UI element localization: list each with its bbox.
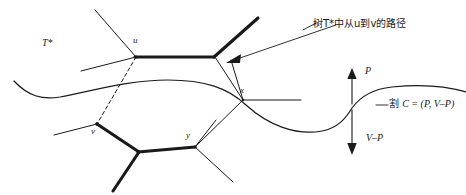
bold-edge-to-y: [138, 147, 195, 152]
vp-arrow-head: [347, 143, 356, 155]
bold-edge-v-down-right: [97, 124, 139, 152]
edge-y-down-right: [195, 147, 233, 182]
vertex-dot-x: [242, 99, 245, 102]
bold-edge-up-right: [214, 18, 258, 57]
p-arrow-head: [347, 68, 356, 79]
vertex-dot-y: [193, 145, 196, 148]
vertex-label-x: x: [240, 86, 244, 95]
path-callout-line: [240, 25, 336, 58]
thin-tree-edges: [54, 10, 301, 182]
vertex-dot-v: [95, 122, 99, 126]
path-annotation-label: 树T*中从u到v的路径: [313, 19, 406, 29]
edge-y-up-right: [195, 120, 216, 147]
edge-u-up-left: [95, 10, 136, 57]
vertex-label-u: u: [133, 36, 138, 45]
bold-path-edges: [97, 18, 258, 191]
partition-label-v-minus-p: V–P: [366, 133, 383, 143]
cut-direction-arrows: [347, 68, 356, 155]
mst-cut-diagram: T* u v x y 树T*中从u到v的路径 P V–P 割 C = (P, V…: [0, 0, 466, 195]
cut-annotation-label: 割 C = (P, V–P): [389, 99, 454, 109]
edge-u-down-left: [81, 57, 136, 71]
vertex-label-y: y: [186, 131, 190, 140]
edge-junction-x: [215, 57, 243, 100]
cut-annotation-math-part: C = (P, V–P): [402, 98, 454, 109]
path-callout-arrowhead: [226, 54, 241, 63]
vertex-label-v: v: [91, 127, 95, 136]
vertex-dots: [95, 55, 244, 148]
dashed-edge-u-v: [97, 57, 136, 124]
tree-label-t-star: T*: [42, 38, 53, 48]
cut-annotation-cjk-part: 割: [389, 98, 402, 109]
vertex-dot-u: [134, 55, 137, 58]
edge-x-y: [195, 100, 243, 147]
partition-label-p: P: [365, 66, 371, 76]
bold-edge-down-left: [113, 152, 139, 191]
